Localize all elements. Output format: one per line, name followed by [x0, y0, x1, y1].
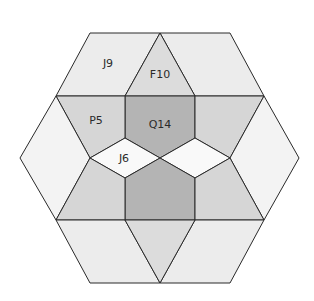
label-p5: P5: [89, 114, 103, 127]
label-j6: J6: [118, 152, 129, 165]
label-j9: J9: [102, 57, 113, 70]
hexagon-quilt-diagram: J9 F10 P5 Q14 J6: [0, 0, 314, 301]
label-f10: F10: [150, 68, 170, 81]
label-q14: Q14: [149, 118, 172, 131]
